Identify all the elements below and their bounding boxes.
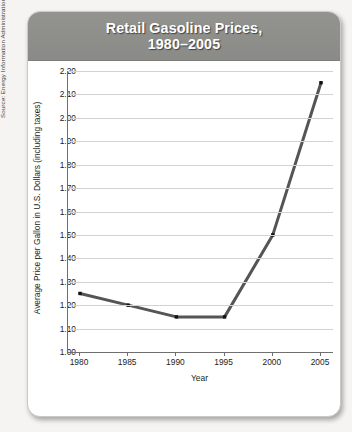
gridline	[68, 282, 333, 283]
gridline	[68, 188, 333, 189]
chart-title-line2: 1980–2005	[106, 36, 262, 53]
x-axis-title: Year	[67, 373, 332, 383]
gridline	[68, 71, 333, 72]
x-axis-tick-labels: 198019851990199520002005	[67, 357, 332, 371]
gridline	[68, 118, 333, 119]
x-tick-label: 2000	[262, 357, 281, 367]
source-note: Source: Energy Information Administratio…	[0, 0, 6, 118]
chart-title-line1: Retail Gasoline Prices,	[106, 20, 262, 37]
gridline	[68, 235, 333, 236]
data-point-marker	[319, 81, 322, 84]
x-tick-label: 1990	[166, 357, 185, 367]
x-tick-label: 2005	[311, 357, 330, 367]
data-point-marker	[78, 292, 81, 295]
x-tick-label: 1995	[214, 357, 233, 367]
gridline	[68, 329, 333, 330]
gridline	[68, 212, 333, 213]
gridline	[68, 141, 333, 142]
x-tick	[175, 352, 176, 356]
plot-area: Average Price per Gallon in U.S. Dollars…	[28, 61, 340, 416]
x-tick	[224, 352, 225, 356]
gridline	[68, 94, 333, 95]
x-tick	[272, 352, 273, 356]
data-point-marker	[223, 315, 226, 318]
data-point-marker	[175, 315, 178, 318]
gridline	[68, 305, 333, 306]
x-tick	[320, 352, 321, 356]
x-tick	[79, 352, 80, 356]
gridline	[68, 165, 333, 166]
gridline	[68, 258, 333, 259]
chart-title-bar: Retail Gasoline Prices, 1980–2005	[28, 12, 340, 61]
chart-title: Retail Gasoline Prices, 1980–2005	[106, 20, 262, 53]
grid-area	[67, 71, 333, 353]
x-tick-label: 1985	[118, 357, 137, 367]
y-axis-title: Average Price per Gallon in U.S. Dollars…	[32, 63, 44, 353]
chart-card: Retail Gasoline Prices, 1980–2005 Averag…	[27, 11, 341, 417]
x-tick	[127, 352, 128, 356]
x-tick-label: 1980	[70, 357, 89, 367]
